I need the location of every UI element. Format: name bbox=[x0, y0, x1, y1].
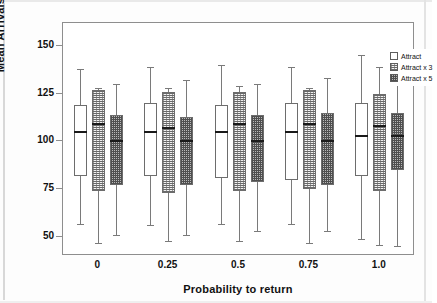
whisker-cap-lower bbox=[183, 235, 190, 236]
whisker-upper bbox=[361, 55, 362, 103]
legend-swatch-icon bbox=[390, 74, 398, 82]
whisker-cap-upper bbox=[95, 88, 102, 89]
whisker-cap-upper bbox=[254, 84, 261, 85]
whisker-lower bbox=[239, 191, 240, 241]
whisker-cap-upper bbox=[358, 55, 365, 56]
whisker-lower bbox=[397, 170, 398, 246]
box-iqr bbox=[92, 90, 105, 191]
median-line bbox=[285, 131, 298, 133]
legend-item[interactable]: Attract x 5 bbox=[390, 73, 437, 83]
legend-swatch-icon bbox=[390, 52, 398, 60]
box-iqr bbox=[74, 105, 87, 176]
box-iqr bbox=[233, 92, 246, 191]
whisker-upper bbox=[221, 65, 222, 105]
y-axis-tick bbox=[56, 45, 62, 46]
whisker-cap-lower bbox=[376, 245, 383, 246]
legend-label: Attract x 3 bbox=[401, 63, 433, 72]
y-axis-tick-label-text: 50 bbox=[20, 230, 54, 241]
whisker-cap-upper bbox=[236, 86, 243, 87]
legend-label: Attract x 5 bbox=[401, 74, 433, 83]
box-iqr bbox=[251, 115, 264, 182]
median-line bbox=[74, 131, 87, 133]
median-line bbox=[144, 131, 157, 133]
y-axis-tick-label-text: 100 bbox=[20, 134, 54, 145]
whisker-cap-lower bbox=[358, 239, 365, 240]
y-axis-tick-label: 75 bbox=[16, 182, 54, 194]
whisker-upper bbox=[116, 84, 117, 115]
whisker-upper bbox=[379, 67, 380, 94]
y-axis-tick bbox=[56, 140, 62, 141]
whisker-lower bbox=[116, 185, 117, 235]
whisker-lower bbox=[168, 193, 169, 241]
whisker-upper bbox=[257, 84, 258, 115]
whisker-cap-lower bbox=[113, 235, 120, 236]
box-iqr bbox=[321, 113, 334, 186]
median-line bbox=[321, 140, 334, 142]
legend-swatch-icon bbox=[390, 63, 398, 71]
whisker-cap-lower bbox=[95, 243, 102, 244]
median-line bbox=[373, 125, 386, 127]
median-line bbox=[180, 140, 193, 142]
whisker-cap-upper bbox=[306, 88, 313, 89]
whisker-lower bbox=[98, 191, 99, 243]
whisker-cap-upper bbox=[288, 67, 295, 68]
box-iqr bbox=[162, 92, 175, 193]
whisker-cap-upper bbox=[324, 78, 331, 79]
median-line bbox=[251, 140, 264, 142]
y-axis-tick-label: 100 bbox=[16, 134, 54, 146]
whisker-cap-lower bbox=[147, 225, 154, 226]
whisker-cap-lower bbox=[165, 241, 172, 242]
whisker-upper bbox=[186, 80, 187, 116]
median-line bbox=[391, 135, 404, 137]
whisker-cap-upper bbox=[113, 84, 120, 85]
median-line bbox=[355, 135, 368, 137]
y-axis-tick-label-text: 125 bbox=[20, 87, 54, 98]
whisker-upper bbox=[80, 69, 81, 105]
box-iqr bbox=[180, 117, 193, 186]
whisker-cap-lower bbox=[254, 231, 261, 232]
box-iqr bbox=[391, 113, 404, 170]
whisker-cap-upper bbox=[183, 80, 190, 81]
whisker-cap-upper bbox=[376, 67, 383, 68]
median-line bbox=[110, 140, 123, 142]
y-axis-tick bbox=[56, 93, 62, 94]
whisker-lower bbox=[379, 191, 380, 244]
legend-item[interactable]: Attract x 3 bbox=[390, 62, 437, 72]
whisker-lower bbox=[150, 176, 151, 226]
x-axis-tick-label: 0 bbox=[72, 259, 122, 270]
whisker-upper bbox=[150, 67, 151, 103]
box-iqr bbox=[285, 103, 298, 179]
page-edge-top bbox=[0, 0, 432, 2]
y-axis-tick-label: 50 bbox=[16, 230, 54, 242]
median-line bbox=[162, 127, 175, 129]
whisker-lower bbox=[80, 176, 81, 224]
y-axis-tick-label: 150 bbox=[16, 39, 54, 51]
x-axis-tick-label: 0.5 bbox=[213, 259, 263, 270]
y-axis-tick-label-text: 75 bbox=[20, 182, 54, 193]
whisker-cap-lower bbox=[77, 224, 84, 225]
y-axis-tick-label: 125 bbox=[16, 87, 54, 99]
y-axis-title: Mean Arrivals bbox=[0, 0, 6, 95]
whisker-lower bbox=[327, 185, 328, 231]
whisker-upper bbox=[327, 78, 328, 112]
plot-area: AttractAttract x 3Attract x 5 bbox=[62, 22, 414, 255]
legend: AttractAttract x 3Attract x 5 bbox=[387, 49, 437, 86]
whisker-lower bbox=[186, 185, 187, 235]
whisker-cap-lower bbox=[218, 224, 225, 225]
median-line bbox=[215, 131, 228, 133]
y-axis-tick-label-text: 150 bbox=[20, 39, 54, 50]
whisker-cap-upper bbox=[147, 67, 154, 68]
whisker-cap-lower bbox=[324, 231, 331, 232]
legend-item[interactable]: Attract bbox=[390, 51, 437, 61]
median-line bbox=[233, 123, 246, 125]
whisker-cap-lower bbox=[306, 243, 313, 244]
box-iqr bbox=[215, 105, 228, 178]
box-iqr bbox=[144, 103, 157, 176]
whisker-lower bbox=[221, 178, 222, 224]
whisker-lower bbox=[361, 176, 362, 239]
box-iqr bbox=[355, 103, 368, 176]
x-axis-title: Probability to return bbox=[62, 283, 414, 295]
y-axis-tick bbox=[56, 236, 62, 237]
whisker-lower bbox=[309, 189, 310, 242]
